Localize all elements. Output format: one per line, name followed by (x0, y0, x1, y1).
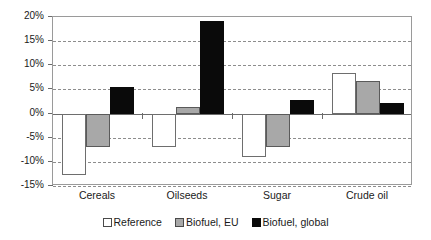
bar-crude-oil-biofuel-global (380, 103, 404, 113)
gridline (53, 162, 411, 163)
x-axis-category-label: Cereals (52, 189, 142, 201)
legend-label: Reference (114, 216, 162, 228)
y-axis-tick-label: 10% (24, 59, 44, 69)
legend-label: Biofuel, EU (186, 216, 239, 228)
bar-sugar-biofuel-global (290, 100, 314, 114)
y-axis-tick-label: 0% (30, 108, 44, 118)
y-axis-tick-label: -15% (21, 180, 44, 190)
gridline (53, 65, 411, 66)
chart-legend: ReferenceBiofuel, EUBiofuel, global (0, 216, 431, 228)
bar-oilseeds-reference (152, 114, 176, 147)
bar-cereals-biofuel-eu (86, 114, 110, 148)
y-axis-tick-mark (48, 185, 53, 186)
bar-cereals-biofuel-global (110, 87, 134, 113)
x-axis-tick-mark (232, 113, 233, 119)
x-axis-category-label: Oilseeds (142, 189, 232, 201)
bar-crude-oil-reference (332, 73, 356, 114)
legend-swatch-icon (103, 218, 112, 227)
gridline (53, 186, 411, 187)
y-axis-tick-label: 15% (24, 35, 44, 45)
x-axis-category-label: Crude oil (322, 189, 412, 201)
bar-sugar-reference (242, 114, 266, 157)
x-axis-tick-mark (322, 113, 323, 119)
bar-cereals-reference (62, 114, 86, 176)
legend-label: Biofuel, global (263, 216, 329, 228)
y-axis-tick-label: 5% (30, 83, 44, 93)
bar-chart: 20%15%10%5%0%-5%-10%-15% CerealsOilseeds… (0, 0, 431, 240)
x-axis-tick-mark (142, 113, 143, 119)
y-axis-tick-label: -10% (21, 156, 44, 166)
bar-oilseeds-biofuel-eu (176, 107, 200, 113)
bar-oilseeds-biofuel-global (200, 21, 224, 114)
bar-sugar-biofuel-eu (266, 114, 290, 148)
legend-item-reference[interactable]: Reference (103, 216, 162, 228)
y-axis-tick-label: -5% (26, 132, 44, 142)
legend-swatch-icon (252, 218, 261, 227)
gridline (53, 41, 411, 42)
legend-item-biofuel-eu[interactable]: Biofuel, EU (175, 216, 239, 228)
plot-area (52, 16, 412, 185)
bar-crude-oil-biofuel-eu (356, 81, 380, 114)
y-axis: 20%15%10%5%0%-5%-10%-15% (0, 0, 50, 240)
legend-swatch-icon (175, 218, 184, 227)
legend-item-biofuel-global[interactable]: Biofuel, global (252, 216, 329, 228)
x-axis-category-label: Sugar (232, 189, 322, 201)
y-axis-tick-label: 20% (24, 11, 44, 21)
